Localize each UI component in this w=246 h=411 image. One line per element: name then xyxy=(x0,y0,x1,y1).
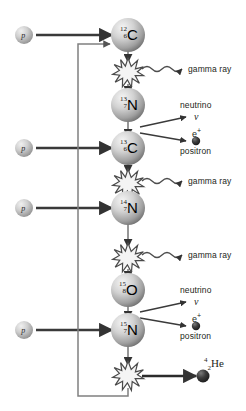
neutrino-symbol-2: ν xyxy=(194,296,198,307)
positron-symbol-charge-2: + xyxy=(197,312,201,319)
diagram-canvas xyxy=(0,0,246,411)
proton-label-2: p xyxy=(21,144,25,153)
gamma-ray-label-2: gamma ray xyxy=(188,176,231,186)
element-symbol-carbon-13: C xyxy=(127,140,138,155)
gamma-wave-3 xyxy=(142,253,182,258)
positron-symbol-2: e+ xyxy=(192,312,201,324)
proton-label-3: p xyxy=(21,204,25,213)
element-symbol-nitrogen-13: N xyxy=(127,97,138,112)
proton-label-4: p xyxy=(21,326,25,335)
helium-product-label: 42He xyxy=(204,356,224,372)
gamma-ray-label-3: gamma ray xyxy=(188,250,231,260)
element-symbol-nitrogen-14: N xyxy=(127,200,138,215)
gamma-wave-2 xyxy=(142,179,182,184)
gamma-ray-label-1: gamma ray xyxy=(188,64,231,74)
element-symbol-oxygen-15: O xyxy=(126,282,138,297)
element-symbol-nitrogen-15: N xyxy=(127,322,138,337)
cno-cycle-diagram: p p p p 12 6 C 13 7 N 13 6 C 14 7 N 15 8… xyxy=(0,0,246,411)
proton-feed-arrows xyxy=(36,35,112,330)
gamma-ray-arrows xyxy=(142,67,182,258)
arrow-positron-1 xyxy=(140,133,186,141)
burst-3 xyxy=(113,243,144,272)
positron-label-2: positron xyxy=(180,331,211,341)
positron-symbol-1: e+ xyxy=(192,127,201,139)
helium-element-symbol: He xyxy=(211,357,224,369)
arrow-neutrino-1 xyxy=(140,117,186,127)
helium-mass-number: 4 xyxy=(204,356,208,364)
arrow-neutrino-2 xyxy=(140,302,186,312)
burst-4 xyxy=(113,361,144,390)
positron-symbol-charge-1: + xyxy=(197,127,201,134)
gamma-wave-1 xyxy=(142,67,182,72)
neutrino-label-1: neutrino xyxy=(180,100,212,110)
arrow-positron-2 xyxy=(140,318,186,326)
neutrino-symbol-1: ν xyxy=(194,111,198,122)
proton-spheres xyxy=(15,26,33,339)
positron-label-1: positron xyxy=(180,146,211,156)
proton-label-1: p xyxy=(21,31,25,40)
burst-1 xyxy=(113,58,144,87)
neutrino-label-2: neutrino xyxy=(180,285,212,295)
element-symbol-carbon-12: C xyxy=(127,27,138,42)
